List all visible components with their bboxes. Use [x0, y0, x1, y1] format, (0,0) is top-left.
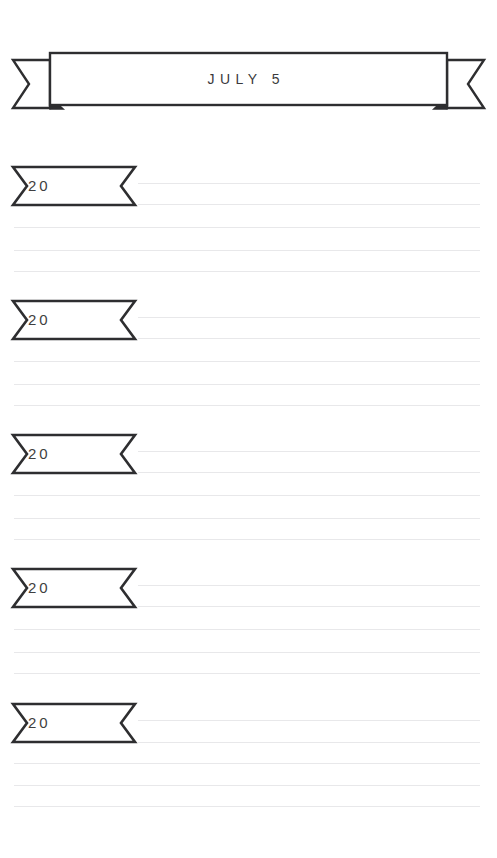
year-entry-1: 20	[0, 165, 497, 299]
year-entry-5: 20	[0, 702, 497, 836]
ribbon-right-tail	[447, 60, 484, 108]
rule-line	[14, 495, 480, 496]
rule-line	[14, 271, 480, 272]
rule-line	[14, 250, 480, 251]
rule-line	[14, 806, 480, 807]
rule-line	[138, 585, 480, 586]
rule-line	[14, 361, 480, 362]
rule-line	[14, 652, 480, 653]
rule-line	[14, 384, 480, 385]
year-prefix-3: 20	[28, 433, 51, 474]
rule-line	[14, 518, 480, 519]
rule-line	[14, 673, 480, 674]
rule-line	[138, 720, 480, 721]
year-prefix-1: 20	[28, 165, 51, 206]
year-entry-4: 20	[0, 567, 497, 701]
year-prefix-5: 20	[28, 702, 51, 743]
page-title: JULY 5	[50, 53, 437, 105]
rule-line	[138, 606, 480, 607]
rule-line	[138, 204, 480, 205]
rule-line	[14, 763, 480, 764]
rule-line	[138, 183, 480, 184]
rule-line	[14, 539, 480, 540]
rule-line	[14, 227, 480, 228]
rule-line	[14, 629, 480, 630]
rule-line	[14, 785, 480, 786]
rule-line	[138, 742, 480, 743]
rule-line	[138, 338, 480, 339]
year-entry-2: 20	[0, 299, 497, 433]
ribbon-left-tail	[13, 60, 50, 108]
memory-book-page: JULY 5 20 20	[0, 0, 497, 858]
rule-line	[138, 317, 480, 318]
rule-line	[14, 405, 480, 406]
year-prefix-4: 20	[28, 567, 51, 608]
rule-line	[138, 451, 480, 452]
year-prefix-2: 20	[28, 299, 51, 340]
rule-line	[138, 472, 480, 473]
year-entry-3: 20	[0, 433, 497, 567]
